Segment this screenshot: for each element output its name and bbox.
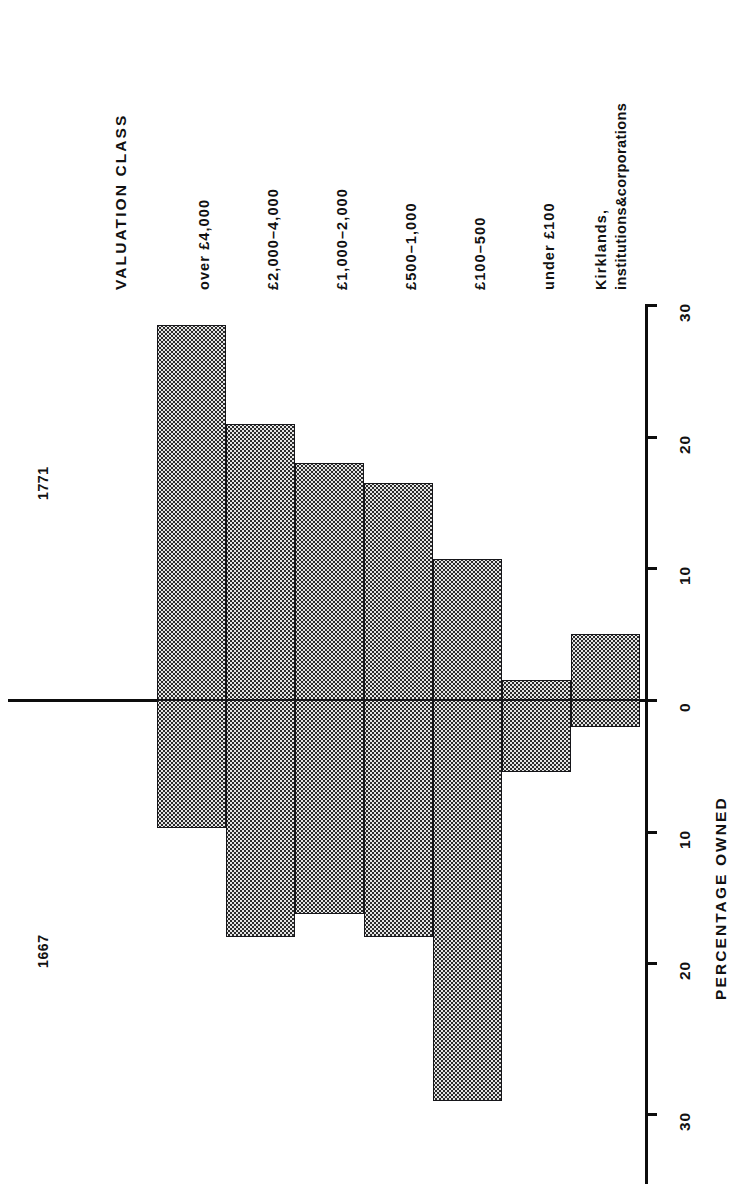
bar-1771-kirklands [571, 634, 640, 700]
axis-tick-label-10-bottom: 10 [676, 830, 694, 849]
bar-1667-under-100 [502, 700, 571, 772]
bar-1667-500-1000 [364, 700, 433, 937]
axis-tick-label-20-bottom: 20 [676, 961, 694, 980]
bar-1771-2000-4000 [226, 424, 295, 700]
plot-area: 30 20 10 0 10 20 30 [0, 0, 748, 1187]
bar-1667-2000-4000 [226, 700, 295, 937]
bar-1667-1000-2000 [295, 700, 364, 914]
bar-1771-1000-2000 [295, 463, 364, 700]
axis-tick-20-top [645, 436, 657, 439]
axis-tick-label-10-top: 10 [676, 566, 694, 585]
axis-tick-20-bottom [645, 962, 657, 965]
axis-tick-0 [645, 699, 657, 702]
bar-1667-100-500 [433, 700, 502, 1101]
chart-figure: VALUATION CLASS over £4,000 £2,000–4,000… [0, 0, 748, 1187]
bar-1771-over-4000 [157, 325, 226, 700]
bar-1771-100-500 [433, 559, 502, 700]
bar-1771-500-1000 [364, 483, 433, 700]
axis-tick-30-bottom [645, 1113, 657, 1116]
bar-1771-under-100 [502, 680, 571, 700]
axis-tick-30-top [645, 304, 657, 307]
axis-tick-10-top [645, 567, 657, 570]
axis-tick-label-30-top: 30 [676, 303, 694, 322]
bar-1667-kirklands [571, 700, 640, 727]
axis-tick-label-0: 0 [676, 702, 694, 712]
axis-tick-label-20-top: 20 [676, 435, 694, 454]
axis-tick-10-bottom [645, 831, 657, 834]
bar-1667-over-4000 [157, 700, 226, 828]
axis-tick-label-30-bottom: 30 [676, 1112, 694, 1131]
